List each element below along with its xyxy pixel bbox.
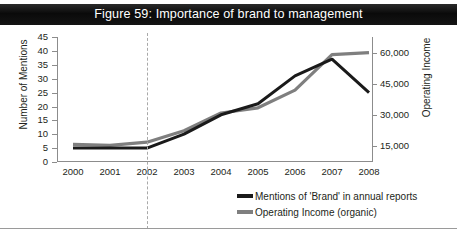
legend-swatch-icon — [237, 194, 253, 198]
bottom-divider — [0, 228, 457, 229]
legend-item-brand-mentions: Mentions of 'Brand' in annual reports — [237, 189, 417, 203]
chart-legend: Mentions of 'Brand' in annual reports Op… — [237, 189, 417, 221]
figure-title: Figure 59: Importance of brand to manage… — [0, 4, 457, 25]
series-line-operating-income — [73, 53, 369, 146]
legend-label-operating-income: Operating Income (organic) — [255, 207, 377, 218]
chart-plot-area: Number of Mentions Operating Income 0 5 … — [0, 25, 457, 235]
legend-swatch-icon — [237, 210, 253, 214]
series-line-brand-mentions — [73, 59, 369, 148]
year-2002-marker-line — [147, 33, 148, 229]
legend-label-brand-mentions: Mentions of 'Brand' in annual reports — [255, 191, 417, 202]
legend-item-operating-income: Operating Income (organic) — [237, 205, 417, 219]
